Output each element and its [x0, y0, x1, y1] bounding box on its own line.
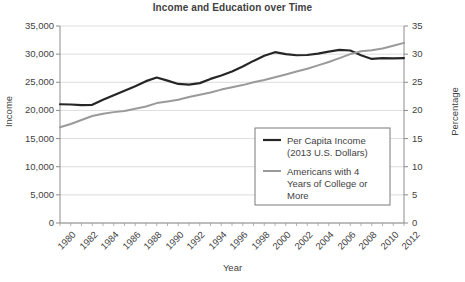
y-axis-left-tick-label: 25,000 — [8, 76, 54, 87]
y-axis-left-tick-label: 15,000 — [8, 133, 54, 144]
legend-label-1: Americans with 4 — [287, 166, 359, 177]
chart-container: Income and Education over Time Income Pe… — [0, 0, 465, 282]
y-axis-right-tick-label: 10 — [412, 161, 442, 172]
y-axis-left-tick-label: 35,000 — [8, 20, 54, 31]
legend-label-0: (2013 U.S. Dollars) — [287, 147, 368, 158]
series-line-1 — [60, 43, 404, 127]
data-series — [60, 43, 404, 127]
y-axis-left-tick-label: 0 — [8, 217, 54, 228]
y-axis-right-tick-label: 25 — [412, 76, 442, 87]
legend-label-0: Per Capita Income — [287, 135, 366, 146]
y-axis-left-tick-label: 30,000 — [8, 48, 54, 59]
legend-label-1: More — [287, 190, 309, 201]
y-axis-left-tick-label: 20,000 — [8, 104, 54, 115]
chart-legend: Per Capita Income(2013 U.S. Dollars)Amer… — [255, 128, 390, 205]
y-axis-left-tick-label: 10,000 — [8, 161, 54, 172]
series-line-0 — [60, 50, 404, 105]
y-axis-right-tick-label: 0 — [412, 217, 442, 228]
legend-label-1: Years of College or — [287, 178, 367, 189]
y-axis-left-tick-label: 5,000 — [8, 189, 54, 200]
y-axis-right-tick-label: 15 — [412, 133, 442, 144]
y-axis-right-tick-label: 20 — [412, 104, 442, 115]
y-axis-right-tick-label: 5 — [412, 189, 442, 200]
y-axis-right-tick-label: 30 — [412, 48, 442, 59]
y-axis-right-tick-label: 35 — [412, 20, 442, 31]
